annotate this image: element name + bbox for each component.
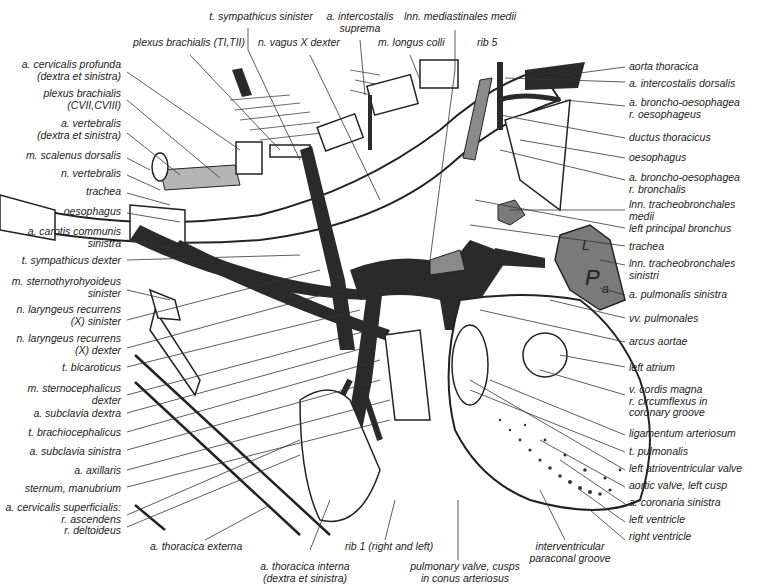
label-rib-5: rib 5 — [477, 37, 497, 49]
node-mass — [317, 114, 363, 151]
label-oesophagus-right: oesophagus — [629, 152, 686, 164]
label-sternum-manubrium: sternum, manubrium — [25, 483, 121, 495]
label-arcus-aortae: arcus aortae — [629, 336, 687, 348]
node-label-p: P — [585, 265, 600, 290]
aorta-thoracica-shape — [525, 62, 585, 90]
label-a-broncho-oesophagea-br: a. broncho-oesophagear. bronchalis — [629, 172, 740, 195]
label-t-bicaroticus: t. bicaroticus — [62, 362, 121, 374]
label-lnn-mediastinales-medii: lnn. mediastinales medii — [404, 11, 516, 23]
label-a-subclavia-dextra: a. subclavia dextra — [33, 408, 121, 420]
anatomy-figure: L P a — [0, 0, 771, 588]
a-pulmonalis-vessel — [495, 248, 545, 268]
vertebral-tube — [236, 142, 262, 174]
oesophagus-shape — [505, 100, 570, 210]
label-rib-1: rib 1 (right and left) — [345, 541, 433, 553]
label-a-cervicalis-superficialis: a. cervicalis superficialis:r. ascendens… — [5, 502, 121, 537]
label-right-ventricle: right ventricle — [629, 531, 691, 543]
label-ligamentum-arteriosum: ligamentum arteriosum — [629, 428, 736, 440]
label-a-subclavia-sinistra: a. subclavia sinistra — [29, 446, 121, 458]
label-left-ventricle: left ventricle — [629, 514, 685, 526]
label-interventricular-groove: interventricularparaconal groove — [515, 541, 625, 564]
manubrium-shape — [385, 330, 430, 420]
grey-trachea-end — [430, 250, 465, 275]
thick-line-2 — [135, 382, 300, 535]
pulmonary-valve-shape — [452, 325, 488, 405]
label-t-brachiocephalicus: t. brachiocephalicus — [28, 427, 121, 439]
label-trachea-left: trachea — [86, 186, 121, 198]
lnn-tracheobronchales-medii-shape — [498, 200, 525, 225]
label-m-longus-colli: m. longus colli — [378, 37, 445, 49]
heart-outline — [449, 295, 650, 510]
node-label-l: L — [582, 237, 590, 253]
label-left-atrioventricular-valve: left atrioventricular valve — [629, 463, 742, 475]
label-t-pulmonalis: t. pulmonalis — [629, 446, 688, 458]
lnn-mediastinales-shape — [420, 60, 458, 88]
label-a-carotis-communis: a. carotis communissinistra — [28, 226, 121, 249]
label-a-axillaris: a. axillaris — [74, 465, 121, 477]
label-plexus-brachialis-cvii: plexus brachialis(CVII,CVIII) — [43, 88, 121, 111]
label-vv-pulmonales: vv. pulmonales — [629, 313, 698, 325]
label-n-vertebralis: n. vertebralis — [61, 168, 121, 180]
label-left-atrium: left atrium — [629, 362, 675, 374]
label-a-coronaria-sinistra: a. coronaria sinistra — [629, 497, 721, 509]
thick-line-1 — [135, 355, 330, 535]
hatching-top — [230, 70, 385, 140]
label-t-sympathicus-sinister: t. sympathicus sinister — [196, 11, 326, 23]
label-left-principal-bronchus: left principal bronchus — [629, 223, 731, 235]
label-t-sympathicus-dexter: t. sympathicus dexter — [22, 255, 121, 267]
label-lnn-tracheobronchales-medii: lnn. tracheobronchalesmedii — [629, 199, 735, 222]
label-v-cordis-magna: v. cordis magnar. circumflexus incoronar… — [629, 384, 707, 419]
label-pulmonary-valve: pulmonary valve, cuspsin conus arteriosu… — [400, 561, 530, 584]
label-m-sternothyrohyoideus: m. sternothyrohyoideussinister — [12, 276, 121, 299]
label-aorta-thoracica: aorta thoracica — [629, 61, 698, 73]
label-m-scalenus-dorsalis: m. scalenus dorsalis — [26, 150, 121, 162]
label-m-sternocephalicus: m. sternocephalicusdexter — [28, 383, 121, 406]
label-oesophagus-left: oesophagus — [64, 206, 121, 218]
label-n-vagus-dexter: n. vagus X dexter — [258, 37, 340, 49]
label-a-thoracica-externa: a. thoracica externa — [150, 541, 242, 553]
intercostalis-suprema-vessel — [368, 95, 372, 150]
scalenus-tube — [152, 153, 168, 181]
label-n-laryngeus-dexter: n. laryngeus recurrens(X) dexter — [17, 333, 121, 356]
label-n-laryngeus-sinister: n. laryngeus recurrens(X) sinister — [17, 304, 121, 327]
label-plexus-brachialis-ti: plexus brachialis (TI,TII) — [133, 37, 245, 49]
label-trachea-right: trachea — [629, 241, 664, 253]
label-a-intercostalis-dorsalis: a. intercostalis dorsalis — [629, 78, 735, 90]
a-vertebralis-vessel — [232, 68, 252, 97]
label-aortic-valve-left-cusp: aortic valve, left cusp — [629, 480, 727, 492]
m-longus-colli-shape — [367, 75, 418, 116]
label-a-pulmonalis-sinistra: a. pulmonalis sinistra — [629, 289, 727, 301]
a-intercostalis-dorsalis-shape — [497, 62, 503, 130]
label-lnn-tracheobronchales-sinistri: lnn. tracheobronchalessinistri — [629, 258, 735, 281]
label-a-intercostalis-suprema: a. intercostalissuprema — [315, 11, 405, 34]
label-a-broncho-oesophagea-oes: a. broncho-oesophagear. oesophageus — [629, 97, 740, 120]
label-a-cervicalis-profunda: a. cervicalis profunda(dextra et sinistr… — [22, 59, 121, 82]
label-a-vertebralis: a. vertebralis(dextra et sinistra) — [37, 118, 121, 141]
label-ductus-thoracicus: ductus thoracicus — [629, 132, 711, 144]
label-a-thoracica-interna: a. thoracica interna(dextra et sinistra) — [245, 561, 365, 584]
